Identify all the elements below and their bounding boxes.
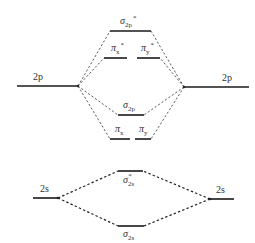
node-2s-right	[209, 198, 212, 201]
connector-2sR-sigma2sstar	[143, 171, 210, 199]
connector-2pL-pixstar	[78, 58, 104, 86]
mo-labels: σ2p* πx* πy* σ2p πx πy σ2s* σ2s	[111, 14, 155, 242]
label-piy-star: πy*	[141, 41, 155, 56]
label-2p-right: 2p	[222, 72, 232, 83]
label-sigma2p: σ2p	[123, 99, 135, 113]
connector-2sL-sigma2s	[58, 198, 118, 226]
label-sigma2p-star: σ2p*	[120, 14, 137, 29]
connector-2pL-pix	[78, 86, 110, 139]
label-sigma2s: σ2s	[123, 228, 134, 242]
connector-2pL-sigma2p	[78, 86, 118, 115]
label-2s-left: 2s	[40, 183, 49, 194]
label-pix: πx	[115, 123, 124, 137]
label-sigma2s-star: σ2s*	[123, 172, 134, 188]
mo-diagram: 2p 2p 2s 2s σ2p* πx* πy* σ2p	[0, 0, 255, 243]
node-2p-left	[77, 85, 79, 87]
label-pix-star: πx*	[111, 41, 125, 56]
connector-2pR-sigma2pstar	[151, 31, 184, 87]
molecular-orbitals	[104, 31, 160, 226]
label-2p-left: 2p	[33, 71, 43, 82]
connector-2pR-piy	[151, 87, 184, 139]
label-piy: πy	[139, 123, 148, 137]
connector-2sL-sigma2sstar	[58, 171, 118, 198]
node-2s-left	[57, 197, 60, 200]
node-2p-right	[183, 86, 185, 88]
connector-2sR-sigma2s	[144, 199, 210, 226]
connector-2pR-piystar	[160, 58, 184, 87]
connector-2pR-sigma2p	[144, 87, 184, 115]
label-2s-right: 2s	[216, 184, 225, 195]
